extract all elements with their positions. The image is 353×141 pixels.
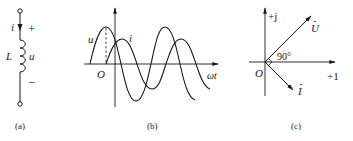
voltage-curve-label: u [88, 33, 94, 45]
bottom-terminal [18, 102, 22, 106]
current-phasor-label: I [297, 84, 303, 97]
minus-sign: − [28, 75, 35, 90]
svg-text:I: I [297, 85, 303, 97]
svg-text:U: U [311, 22, 320, 34]
inductor-coil-icon [20, 40, 25, 72]
voltage-label: u [29, 50, 35, 62]
panel-a-circuit: i + L u − (a) [5, 9, 35, 131]
angle-label: 90° [277, 51, 291, 62]
x-axis-label: ωt [207, 70, 217, 81]
voltage-phasor-label: U [311, 21, 320, 34]
caption-c: (c) [291, 121, 301, 131]
current-phasor [265, 62, 293, 90]
panel-b-waveforms: u i O ωt (b) [84, 8, 218, 131]
caption-b: (b) [147, 121, 158, 131]
top-terminal [18, 9, 22, 13]
current-label: i [11, 21, 14, 33]
figure: i + L u − (a) u i O ωt (b) +j +1 O 90° U [0, 0, 353, 141]
plus-sign: + [28, 21, 35, 36]
inductor-label: L [5, 50, 12, 62]
origin-label: O [97, 68, 105, 80]
caption-a: (a) [15, 121, 25, 131]
current-curve-label: i [129, 32, 132, 44]
current-arrow-icon [18, 24, 23, 31]
real-axis-label: +1 [327, 70, 339, 82]
imag-axis-label: +j [268, 10, 277, 22]
origin-label-c: O [255, 67, 263, 79]
panel-c-phasor: +j +1 O 90° U I (c) [249, 8, 339, 131]
